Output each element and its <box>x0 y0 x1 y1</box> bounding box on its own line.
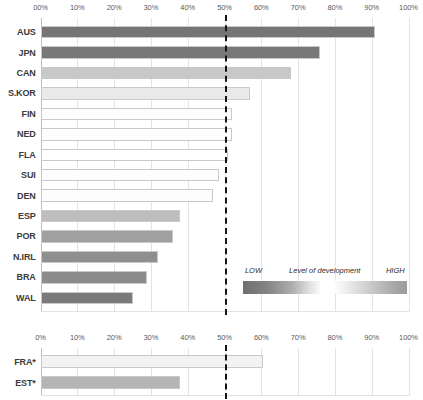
category-label: JPN <box>19 48 36 58</box>
axis-tick-label: 80% <box>328 333 343 342</box>
threshold-line <box>225 345 227 399</box>
bar <box>41 292 133 305</box>
category-label: WAL <box>16 293 35 303</box>
category-label: BRA <box>17 272 36 282</box>
axis-tick-label: 80% <box>328 3 343 12</box>
category-label: AUS <box>17 27 35 37</box>
bar <box>41 189 214 202</box>
axis-tick-label: 0% <box>35 333 46 342</box>
legend-title: Level of development <box>289 266 360 275</box>
legend: LOW Level of development HIGH <box>243 266 407 296</box>
axis-tick-label: 40% <box>180 333 195 342</box>
category-label: FIN <box>22 109 36 119</box>
legend-captions: LOW Level of development HIGH <box>243 266 407 279</box>
axis-tick-label: 00% <box>33 3 48 12</box>
gridline <box>409 348 410 396</box>
axis-tick-label: 70% <box>291 333 306 342</box>
axis-tick-label: 50% <box>217 333 232 342</box>
bar <box>41 251 159 264</box>
axis-tick-label: 100% <box>399 3 418 12</box>
legend-gradient-bar <box>243 281 407 294</box>
axis-tick-label: 10% <box>70 3 85 12</box>
axis-tick-label: 10% <box>70 333 85 342</box>
bar <box>41 46 321 59</box>
category-label: NED <box>17 129 35 139</box>
bar <box>41 210 181 223</box>
category-label: S.KOR <box>8 88 36 98</box>
chart-figure: 00%10%20%30%40%50%60%70%80%90%100% AUSJP… <box>0 0 423 400</box>
axis-tick-label: 60% <box>254 3 269 12</box>
bar <box>41 376 181 389</box>
legend-low-label: LOW <box>245 266 262 275</box>
axis-tick-label: 40% <box>180 3 195 12</box>
bar <box>41 87 251 100</box>
category-label: ESP <box>18 211 35 221</box>
gridline <box>409 18 410 312</box>
category-label: DEN <box>17 191 35 201</box>
bar <box>41 355 264 368</box>
threshold-line <box>225 15 227 315</box>
secondary-panel: FRA*EST* <box>41 348 409 396</box>
axis-tick-label: 30% <box>144 333 159 342</box>
category-label: FLA <box>19 150 36 160</box>
axis-tick-label: 70% <box>291 3 306 12</box>
secondary-panel-axis-labels: 0%10%20%30%40%50%60%70%80%90%100% <box>0 331 423 345</box>
axis-tick-label: 60% <box>254 333 269 342</box>
secondary-plot-area: FRA*EST* <box>41 348 409 396</box>
category-label: FRA* <box>14 357 35 367</box>
category-label: SUI <box>21 170 35 180</box>
axis-tick-label: 20% <box>107 3 122 12</box>
legend-high-label: HIGH <box>386 266 405 275</box>
bar <box>41 26 376 39</box>
bar <box>41 128 232 141</box>
axis-tick-label: 100% <box>399 333 418 342</box>
category-label: POR <box>17 231 36 241</box>
category-label: EST* <box>15 378 35 388</box>
bar <box>41 271 148 284</box>
category-label: N.IRL <box>13 252 36 262</box>
bar <box>41 108 232 121</box>
bar <box>41 67 291 80</box>
bar <box>41 230 173 243</box>
axis-tick-label: 20% <box>107 333 122 342</box>
axis-tick-label: 90% <box>364 333 379 342</box>
axis-tick-label: 30% <box>144 3 159 12</box>
category-label: CAN <box>17 68 36 78</box>
axis-tick-label: 90% <box>364 3 379 12</box>
main-panel-axis-labels: 00%10%20%30%40%50%60%70%80%90%100% <box>0 1 423 15</box>
bar <box>41 149 229 162</box>
bar <box>41 169 219 182</box>
axis-tick-label: 50% <box>217 3 232 12</box>
